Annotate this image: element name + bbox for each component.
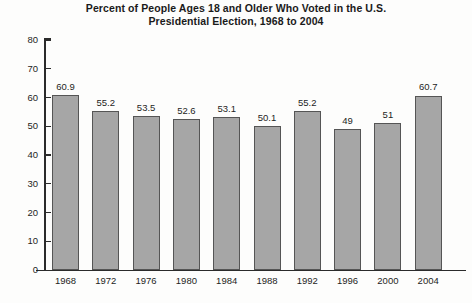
bar: [334, 129, 361, 270]
y-axis-tick-label-wrap: 0: [6, 265, 38, 275]
y-axis-tick-label: 70: [12, 64, 38, 74]
plot-area: 60.955.253.552.653.150.155.2495160.7: [44, 40, 466, 270]
chart-title: Percent of People Ages 18 and Older Who …: [0, 2, 472, 28]
y-axis-tick-label: 30: [12, 179, 38, 189]
x-axis-tick-label: 1984: [205, 276, 248, 286]
bar-value-label: 52.6: [165, 106, 208, 116]
y-axis-tick-label-wrap: 70: [6, 64, 38, 74]
x-axis-tick-label: 1996: [326, 276, 369, 286]
y-axis-tick-label: 20: [12, 208, 38, 218]
y-axis-tick-label: 50: [12, 121, 38, 131]
bar: [294, 111, 321, 270]
bar: [92, 111, 119, 270]
bar-value-label: 53.5: [125, 103, 168, 113]
bar-chart-figure: Percent of People Ages 18 and Older Who …: [0, 0, 472, 303]
bar-value-label: 53.1: [205, 104, 248, 114]
y-axis-tick-label-wrap: 20: [6, 208, 38, 218]
x-axis-tick-label: 1976: [125, 276, 168, 286]
bar: [254, 126, 281, 270]
x-axis-tick-label: 2004: [407, 276, 450, 286]
x-axis-tick-label: 1988: [246, 276, 289, 286]
y-axis-tick-label-wrap: 80: [6, 35, 38, 45]
x-axis-tick-label: 2000: [366, 276, 409, 286]
y-axis-tick-label: 80: [12, 35, 38, 45]
y-axis-tick-label: 60: [12, 93, 38, 103]
bar-value-label: 55.2: [286, 98, 329, 108]
bar: [415, 96, 442, 271]
bar-value-label: 49: [326, 116, 369, 126]
bar-value-label: 51: [366, 110, 409, 120]
y-axis-tick-label-wrap: 30: [6, 179, 38, 189]
chart-title-line-1: Percent of People Ages 18 and Older Who …: [0, 2, 472, 15]
y-axis-tick-label: 10: [12, 236, 38, 246]
x-axis-tick-label: 1968: [44, 276, 87, 286]
bar-value-label: 60.7: [407, 82, 450, 92]
y-axis-tick-label-wrap: 10: [6, 236, 38, 246]
y-axis-tick-label-wrap: 60: [6, 93, 38, 103]
bar-value-label: 55.2: [84, 98, 127, 108]
bar: [52, 95, 79, 270]
y-axis-tick-label-wrap: 50: [6, 121, 38, 131]
y-axis-tick-label: 40: [12, 150, 38, 160]
bar: [173, 119, 200, 270]
bar-value-label: 60.9: [44, 82, 87, 92]
bar-value-label: 50.1: [246, 113, 289, 123]
bar: [374, 123, 401, 270]
x-axis-tick-label: 1980: [165, 276, 208, 286]
x-axis-tick-label: 1972: [84, 276, 127, 286]
bar: [133, 116, 160, 270]
y-axis-tick-label-wrap: 40: [6, 150, 38, 160]
y-axis-tick-label: 0: [12, 265, 38, 275]
bar: [213, 117, 240, 270]
chart-title-line-2: Presidential Election, 1968 to 2004: [0, 15, 472, 28]
x-axis-tick-label: 1992: [286, 276, 329, 286]
